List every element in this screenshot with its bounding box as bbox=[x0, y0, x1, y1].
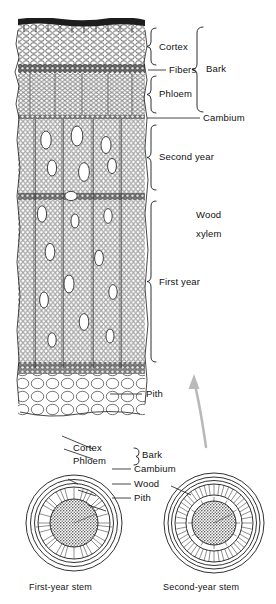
caption-second-year-stem: Second-year stem bbox=[163, 583, 239, 592]
zone-phloem bbox=[18, 73, 145, 115]
label-cortex: Cortex bbox=[159, 42, 188, 52]
label-cs-wood: Wood bbox=[134, 479, 159, 489]
zone-cambium bbox=[18, 115, 145, 119]
first-year-stem-cross-section bbox=[26, 475, 122, 571]
label-wood: Wood bbox=[196, 210, 221, 220]
label-bark: Bark bbox=[206, 64, 226, 74]
relation-arrow-head bbox=[189, 374, 200, 389]
label-cambium: Cambium bbox=[203, 113, 245, 123]
stem-longitudinal-section bbox=[0, 0, 276, 604]
zone-pith bbox=[18, 374, 145, 416]
zone-first-year-xylem bbox=[18, 200, 145, 368]
cortex-brace bbox=[147, 28, 156, 65]
label-cs-phloem: Phloem bbox=[73, 456, 106, 466]
stem-anatomy-figure: Cortex Fibers Phloem Bark Cambium Second… bbox=[0, 0, 276, 604]
growth-ring-band bbox=[18, 193, 145, 200]
phloem-brace bbox=[147, 76, 156, 113]
first-year-brace bbox=[147, 201, 156, 362]
label-first-year: First year bbox=[159, 277, 200, 287]
label-fibers: Fibers bbox=[169, 65, 196, 75]
label-phloem: Phloem bbox=[159, 89, 192, 99]
stem-tissue-body bbox=[18, 17, 145, 416]
second-year-stem-cross-section bbox=[164, 473, 264, 573]
relation-arrow bbox=[194, 381, 206, 447]
caption-first-year-stem: First-year stem bbox=[29, 583, 92, 592]
zone-fiber-band bbox=[18, 64, 145, 73]
label-second-year: Second year bbox=[159, 152, 214, 162]
zone-cortex bbox=[18, 24, 145, 64]
label-cs-bark: Bark bbox=[142, 450, 162, 460]
label-cs-pith: Pith bbox=[134, 493, 151, 503]
label-xylem: xylem bbox=[196, 229, 222, 239]
pith-boundary-band bbox=[18, 362, 145, 374]
label-cs-cambium: Cambium bbox=[134, 464, 176, 474]
label-pith: Pith bbox=[146, 389, 163, 399]
label-cs-cortex: Cortex bbox=[73, 443, 102, 453]
